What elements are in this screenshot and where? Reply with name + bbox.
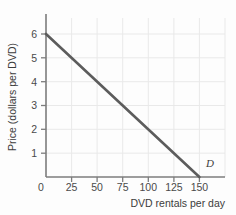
x-tick-label-75: 75 (117, 181, 129, 193)
y-tick-label-4: 4 (31, 76, 37, 88)
demand-curve-chart: 1 2 3 4 5 6 0 25 50 75 100 125 150 D DVD… (0, 0, 236, 215)
x-tick-label-150: 150 (191, 181, 209, 193)
x-tick-label-125: 125 (165, 181, 183, 193)
y-tick-label-2: 2 (31, 123, 37, 135)
x-tick-label-50: 50 (91, 181, 103, 193)
x-tick-label-25: 25 (66, 181, 78, 193)
y-axis-title: Price (dollars per DVD) (6, 43, 18, 151)
y-tick-label-6: 6 (31, 28, 37, 40)
y-tick-label-5: 5 (31, 52, 37, 64)
x-axis-title: DVD rentals per day (130, 197, 225, 209)
demand-curve-label: D (205, 157, 214, 169)
x-tick-label-100: 100 (140, 181, 158, 193)
chart-figure: 1 2 3 4 5 6 0 25 50 75 100 125 150 D DVD… (0, 0, 236, 215)
x-tick-label-0: 0 (38, 181, 44, 193)
y-tick-label-1: 1 (31, 147, 37, 159)
y-tick-label-3: 3 (31, 99, 37, 111)
